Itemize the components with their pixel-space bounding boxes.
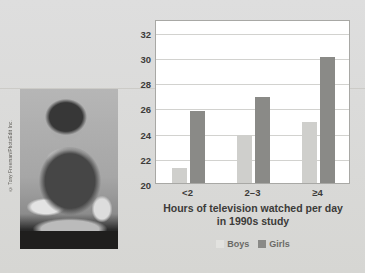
x-axis-title: Hours of television watched per day in 1… bbox=[147, 202, 359, 228]
plot-area: 20222426283032 bbox=[155, 20, 350, 184]
x-axis-tick-label: 2–3 bbox=[245, 187, 261, 198]
x-axis-title-line1: Hours of television watched per day bbox=[147, 202, 359, 215]
y-axis-tick-label: 28 bbox=[140, 79, 151, 90]
photo-image bbox=[20, 89, 118, 249]
legend-swatch-boys bbox=[216, 240, 224, 248]
y-axis-tick-label: 26 bbox=[140, 104, 151, 115]
y-axis-tick-label: 20 bbox=[140, 180, 151, 191]
figure-photo bbox=[20, 89, 118, 249]
legend-item-girls: Girls bbox=[258, 239, 290, 249]
bar-group bbox=[286, 21, 351, 183]
y-axis-tick-label: 22 bbox=[140, 154, 151, 165]
bar-group bbox=[156, 21, 221, 183]
y-axis-tick-label: 24 bbox=[140, 129, 151, 140]
bar-girls-0 bbox=[190, 111, 205, 183]
bar-girls-1 bbox=[255, 97, 270, 183]
bar-boys-2 bbox=[302, 122, 317, 183]
photo-bottom-band bbox=[20, 231, 118, 249]
figure-page: © Tony Freeman/PhotoEdit Inc. Skinfold f… bbox=[0, 0, 365, 273]
bar-boys-1 bbox=[237, 135, 252, 183]
x-axis-title-line2: in 1990s study bbox=[147, 215, 359, 228]
bar-group bbox=[221, 21, 286, 183]
bar-series-container bbox=[156, 21, 349, 183]
chart-legend: BoysGirls bbox=[147, 239, 359, 249]
y-axis-tick-label: 32 bbox=[140, 28, 151, 39]
bar-boys-0 bbox=[172, 168, 187, 183]
legend-item-boys: Boys bbox=[216, 239, 249, 249]
bar-girls-2 bbox=[320, 57, 335, 183]
x-axis-tick-label: ≥4 bbox=[312, 187, 323, 198]
x-axis-tick-label: <2 bbox=[182, 187, 193, 198]
y-axis-tick-label: 30 bbox=[140, 53, 151, 64]
photo-credit: © Tony Freeman/PhotoEdit Inc. bbox=[8, 120, 13, 191]
legend-swatch-girls bbox=[258, 240, 266, 248]
bar-chart: Skinfold fat measure (mm) 20222426283032… bbox=[155, 20, 350, 200]
legend-label: Girls bbox=[269, 239, 290, 249]
legend-label: Boys bbox=[227, 239, 249, 249]
